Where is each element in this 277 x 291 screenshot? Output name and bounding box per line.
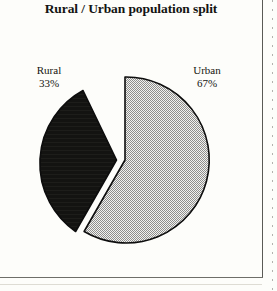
pie-chart-svg — [0, 0, 262, 277]
page-border-horizontal-rule — [0, 277, 263, 278]
pie-chart — [0, 0, 262, 277]
page-edge-perforation-icon — [272, 0, 273, 291]
pie-label-urban-name: Urban — [178, 64, 236, 77]
pie-label-rural: Rural 33% — [20, 64, 78, 89]
pie-label-rural-name: Rural — [20, 64, 78, 77]
chart-page: Rural / Urban population split — [0, 0, 277, 291]
pie-label-rural-percent: 33% — [20, 77, 78, 90]
page-border-vertical-rule — [262, 0, 263, 278]
pie-label-urban-percent: 67% — [178, 77, 236, 90]
pie-label-urban: Urban 67% — [178, 64, 236, 89]
page-scan-smudge — [0, 284, 262, 285]
